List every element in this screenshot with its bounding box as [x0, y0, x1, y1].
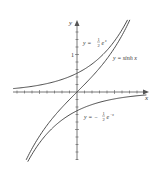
tick-marks	[17, 32, 145, 160]
axes	[13, 23, 146, 160]
label-sinh: y = sinh x	[112, 55, 137, 61]
y-tick-label-1: 1	[71, 52, 74, 58]
label-half-exp: y = 1 2 e x	[82, 37, 107, 49]
y-axis-arrow-icon	[75, 20, 80, 26]
svg-text:2: 2	[103, 117, 105, 122]
curve-neg-half-exp-neg	[28, 95, 147, 162]
svg-text:x: x	[104, 39, 107, 43]
svg-text:y = −: y = −	[83, 114, 98, 120]
y-axis-label: y	[68, 19, 73, 27]
x-axis-label: x	[144, 94, 149, 102]
svg-text:1: 1	[103, 111, 105, 116]
sinh-chart: y x 1 y = 1 2 e x y = sinh x y = − 1 2 e…	[0, 0, 160, 171]
svg-text:−x: −x	[110, 113, 114, 117]
svg-text:1: 1	[98, 37, 100, 42]
label-neg-half-exp-neg: y = − 1 2 e −x	[83, 111, 114, 123]
svg-text:y =: y =	[82, 40, 91, 46]
svg-text:2: 2	[98, 43, 100, 48]
